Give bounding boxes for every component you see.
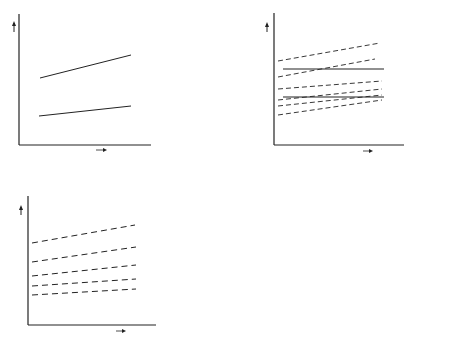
isobar-p2 (40, 55, 131, 78)
panel-a (0, 0, 151, 152)
y-arrow-head-icon (19, 205, 23, 210)
x-arrow-head-icon (369, 149, 373, 153)
y-arrow-head-icon (265, 22, 269, 27)
figure-canvas (0, 0, 452, 364)
isobar-p1 (39, 106, 131, 116)
isobars-dashed (32, 225, 136, 296)
y-arrow-head-icon (12, 21, 16, 26)
panel-b (0, 0, 404, 153)
isobars-dashed (278, 43, 382, 115)
x-arrow-head-icon (103, 148, 107, 152)
x-arrow-head-icon (122, 329, 126, 333)
panel-c (19, 196, 156, 333)
